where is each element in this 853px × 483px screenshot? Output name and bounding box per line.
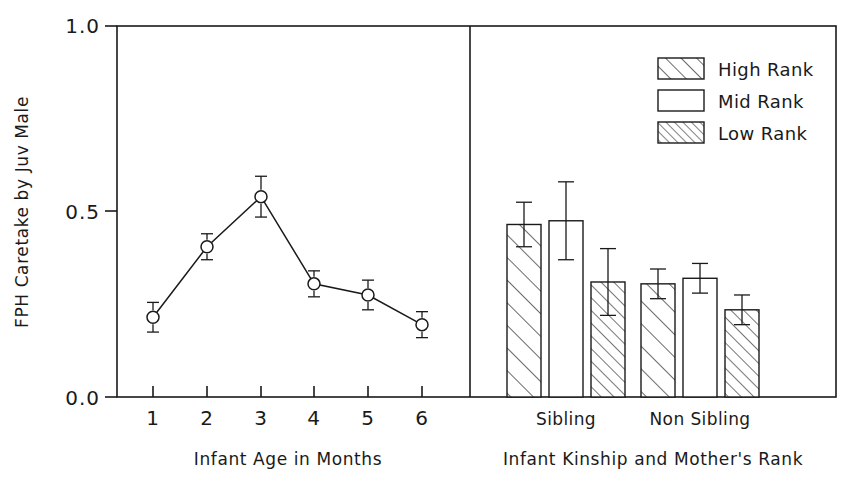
left-x-tick-label-3: 3 [254, 406, 268, 430]
left-x-tick-label-6: 6 [415, 406, 429, 430]
right-x-axis-title: Infant Kinship and Mother's Rank [503, 449, 803, 469]
chart-canvas: 1.0 0.5 0.0 FPH Caretake by Juv Male 1 2… [0, 0, 853, 483]
data-point [255, 176, 267, 217]
bar-rect [507, 224, 541, 397]
legend-label-low-rank: Low Rank [718, 123, 808, 144]
bar-item [641, 269, 675, 397]
legend-swatch-empty-icon [658, 90, 704, 111]
y-axis: 1.0 0.5 0.0 FPH Caretake by Juv Male [12, 14, 117, 410]
left-x-axis-ticks [153, 386, 422, 397]
left-x-axis-title: Infant Age in Months [194, 449, 382, 469]
left-x-tick-label-1: 1 [146, 406, 160, 430]
bar-item [725, 295, 759, 397]
line-series-markers [147, 176, 428, 337]
left-x-tick-label-2: 2 [200, 406, 214, 430]
bar-item [549, 182, 583, 397]
data-point [201, 234, 213, 260]
data-point [147, 302, 159, 332]
left-panel-line-chart: 1 2 3 4 5 6 Infant Age in Months [146, 176, 429, 469]
figure-panel-container: 1.0 0.5 0.0 FPH Caretake by Juv Male 1 2… [0, 0, 853, 483]
bar-series-group [507, 182, 759, 397]
right-x-tick-label-non-sibling: Non Sibling [649, 409, 750, 429]
bar-item [591, 249, 625, 397]
line-series-path [153, 197, 422, 325]
bar-item [683, 263, 717, 397]
legend-item-low-rank[interactable]: Low Rank [658, 122, 808, 144]
bar-rect [641, 284, 675, 397]
bar-item [507, 202, 541, 397]
y-tick-label-top: 1.0 [65, 14, 100, 38]
data-point [308, 271, 320, 297]
data-point [416, 312, 428, 338]
legend-label-mid-rank: Mid Rank [718, 91, 804, 112]
legend-swatch-coarse-hatch-icon [658, 58, 704, 79]
left-x-tick-label-4: 4 [307, 406, 321, 430]
legend-swatch-fine-hatch-icon [658, 122, 704, 143]
right-x-tick-label-sibling: Sibling [536, 409, 596, 429]
right-panel-bar-chart: Sibling Non Sibling Infant Kinship and M… [503, 182, 803, 469]
legend-item-mid-rank[interactable]: Mid Rank [658, 90, 804, 112]
y-axis-title: FPH Caretake by Juv Male [12, 96, 32, 328]
legend-item-high-rank[interactable]: High Rank [658, 58, 814, 80]
legend: High Rank Mid Rank Low Rank [658, 58, 814, 144]
data-point [362, 280, 374, 310]
legend-label-high-rank: High Rank [718, 59, 814, 80]
y-tick-label-bottom: 0.0 [65, 386, 100, 410]
bar-rect [683, 278, 717, 397]
y-tick-label-mid: 0.5 [65, 200, 100, 224]
left-x-tick-label-5: 5 [361, 406, 375, 430]
